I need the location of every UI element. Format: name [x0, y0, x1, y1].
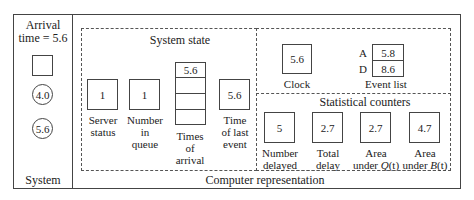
arrival-label: Arrival [14, 19, 72, 31]
arrival-time: time = 5.6 [14, 32, 72, 44]
total-delay-label-1: Total [305, 147, 351, 159]
area-b-box: 4.7 [409, 112, 440, 143]
total-delay-label-2: delay [305, 159, 351, 171]
queue-customer-2: 5.6 [32, 118, 53, 139]
arrival-time-cell-1: 5.6 [175, 62, 206, 78]
event-value-d: 8.6 [372, 60, 404, 77]
area-b-label-2: under B(t) [394, 159, 456, 171]
time-of-last-event-label-3: event [212, 138, 258, 150]
queue-customer-1: 4.0 [32, 84, 53, 105]
number-in-queue-label-2: in [122, 126, 168, 138]
number-delayed-label-1: Number [257, 147, 303, 159]
system-state-title: System state [120, 34, 240, 46]
area-b-label-1: Area [399, 147, 451, 159]
time-of-last-event-label-2: of last [212, 126, 258, 138]
clock-label: Clock [272, 78, 322, 90]
server-status-box: 1 [87, 79, 118, 110]
time-of-last-event-label-1: Time [212, 114, 258, 126]
event-key-a: A [358, 47, 368, 59]
clock-box: 5.6 [282, 44, 312, 74]
server-box [32, 55, 53, 76]
event-list-label: Event list [355, 78, 417, 90]
area-q-box: 2.7 [360, 112, 391, 143]
event-key-d: D [358, 63, 368, 75]
statistical-counters-title: Statistical counters [300, 96, 430, 108]
arrival-time-cell-4 [175, 109, 206, 125]
event-value-a: 5.8 [372, 44, 404, 61]
number-in-queue-label-3: queue [122, 138, 168, 150]
system-title: System [14, 174, 72, 186]
number-in-queue-label-1: Number [122, 114, 168, 126]
number-delayed-box: 5 [264, 112, 295, 143]
area-q-label-1: Area [350, 147, 402, 159]
server-status-label-2: status [80, 126, 126, 138]
times-of-arrival-label-2: of [167, 142, 213, 154]
time-of-last-event-box: 5.6 [219, 79, 250, 110]
server-status-label-1: Server [80, 114, 126, 126]
arrival-time-cell-2 [175, 77, 206, 94]
arrival-time-cell-3 [175, 93, 206, 110]
number-delayed-label-2: delayed [257, 159, 303, 171]
times-of-arrival-label-3: arrival [167, 154, 213, 166]
computer-representation-title: Computer representation [190, 174, 340, 186]
system-divider [72, 14, 73, 189]
number-in-queue-box: 1 [129, 79, 160, 110]
total-delay-box: 2.7 [312, 112, 343, 143]
times-of-arrival-label-1: Times [167, 130, 213, 142]
